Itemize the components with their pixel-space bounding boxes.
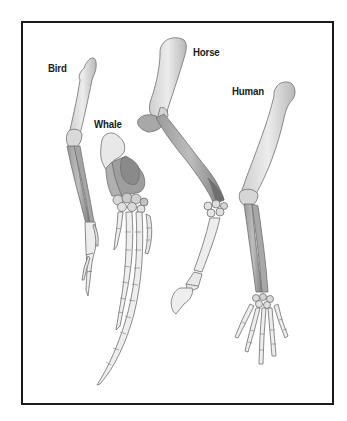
- human-humerus: [241, 82, 295, 200]
- label-bird: Bird: [48, 62, 67, 74]
- whale-digit-4: [145, 214, 152, 254]
- human-finger-little: [274, 304, 288, 338]
- horse-humerus: [149, 38, 186, 120]
- human-limb: [235, 82, 295, 364]
- bird-humerus: [69, 58, 96, 140]
- whale-limb: [97, 133, 152, 385]
- label-horse: Horse: [193, 46, 220, 58]
- horse-hoof: [171, 288, 192, 314]
- whale-digit-3: [97, 212, 143, 385]
- bird-limb: [66, 58, 98, 296]
- whale-digit-1: [114, 212, 123, 250]
- label-whale: Whale: [94, 118, 122, 130]
- human-finger-middle: [259, 308, 266, 364]
- label-human: Human: [232, 85, 264, 97]
- human-finger-ring: [268, 308, 276, 356]
- horse-cannon-bone: [194, 218, 220, 272]
- horse-limb: [138, 38, 228, 314]
